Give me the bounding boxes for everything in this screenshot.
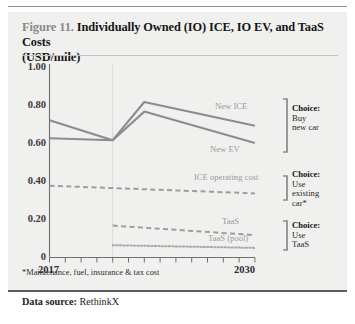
annotation-line-1: Buy <box>292 113 306 123</box>
top-divider <box>8 6 347 7</box>
y-tick-label: 0 <box>12 251 46 262</box>
annotation-title: Choice: <box>292 220 320 230</box>
figure-title: Figure 11. Individually Owned (IO) ICE, … <box>22 20 338 65</box>
y-tick-label: 0.80 <box>12 99 46 110</box>
y-tick-label: 0.20 <box>12 213 46 224</box>
figure-panel: Figure 11. Individually Owned (IO) ICE, … <box>0 0 355 324</box>
series-label-new-ev: New EV <box>210 144 240 154</box>
source-divider <box>8 290 347 292</box>
figure-number: Figure 11. <box>22 20 74 34</box>
y-tick-label: 1.00 <box>12 61 46 72</box>
data-source: Data source: RethinkX <box>22 296 119 307</box>
figure-footnote: *Maintenance, fuel, insurance & tax cost <box>22 268 159 277</box>
annotation-title: Choice: <box>292 103 320 113</box>
series-label-taas-pool: TaaS (pool) <box>208 233 248 243</box>
annotation-line-2: TaaS <box>292 239 309 249</box>
annotation-line-2: existing <box>292 188 319 198</box>
y-tick-label: 0.60 <box>12 137 46 148</box>
annotation-line-3: car* <box>292 198 307 208</box>
data-source-value: RethinkX <box>80 296 120 307</box>
series-label-taas: TaaS <box>222 216 239 226</box>
annotation-use-existing-car: Choice: Use existing car* <box>292 170 320 208</box>
annotation-line-1: Use <box>292 179 305 189</box>
annotation-line-2: new car <box>292 122 319 132</box>
annotation-title: Choice: <box>292 169 320 179</box>
annotation-buy-new-car: Choice: Buy new car <box>292 104 320 133</box>
y-tick-label: 0.40 <box>12 175 46 186</box>
x-tick-label-end: 2030 <box>234 264 255 275</box>
series-label-ice-operating-cost: ICE operating cost <box>194 172 258 182</box>
annotation-use-taas: Choice: Use TaaS <box>292 221 320 250</box>
data-source-label: Data source: <box>22 296 77 307</box>
series-label-new-ice: New ICE <box>215 101 247 111</box>
annotation-line-1: Use <box>292 230 305 240</box>
title-divider <box>22 55 338 56</box>
